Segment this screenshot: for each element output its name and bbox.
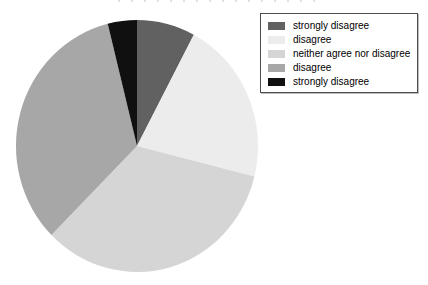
legend: strongly disagree disagree neither agree… [260, 13, 418, 93]
legend-swatch-color [268, 50, 285, 58]
legend-label: disagree [293, 33, 331, 46]
legend-item: disagree [268, 61, 412, 74]
legend-label: disagree [293, 61, 331, 74]
legend-label: strongly disagree [293, 19, 369, 32]
legend-swatch-color [268, 36, 285, 44]
legend-item: strongly disagree [268, 19, 412, 32]
legend-label: neither agree nor disagree [293, 47, 410, 60]
legend-item: neither agree nor disagree [268, 47, 412, 60]
legend-swatch-color [268, 78, 285, 86]
legend-item: disagree [268, 33, 412, 46]
legend-item: strongly disagree [268, 75, 412, 88]
legend-swatch-color [268, 22, 285, 30]
legend-label: strongly disagree [293, 75, 369, 88]
figure: strongly disagree disagree neither agree… [0, 0, 428, 285]
legend-swatch-color [268, 64, 285, 72]
